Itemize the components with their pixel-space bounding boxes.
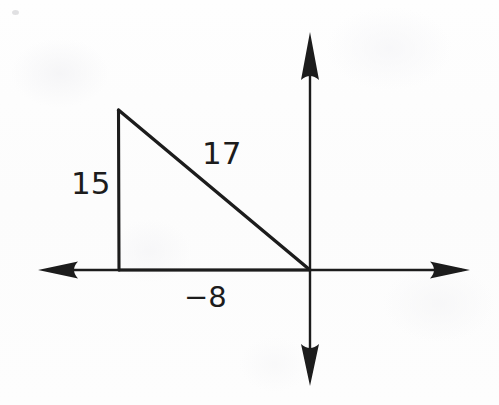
horizontal-leg-label: −8 [184,283,227,312]
vertical-axis-up-arrow-icon [301,32,319,80]
right-triangle [119,110,311,270]
vertical-axis-down-arrow-icon [301,344,319,386]
triangle-hypotenuse [119,110,311,270]
horizontal-axis-right-arrow-icon [430,262,470,279]
figure-canvas: 15 17 −8 [0,0,499,405]
hypotenuse-label: 17 [202,138,241,169]
coordinate-plane-diagram [0,0,499,405]
vertical-axis [301,32,319,386]
axes-group [38,32,470,386]
vertical-leg-label: 15 [71,168,110,199]
horizontal-axis-left-arrow-icon [38,262,78,279]
triangle-vertical-leg [119,110,120,270]
scan-artifact-speck [12,10,19,15]
